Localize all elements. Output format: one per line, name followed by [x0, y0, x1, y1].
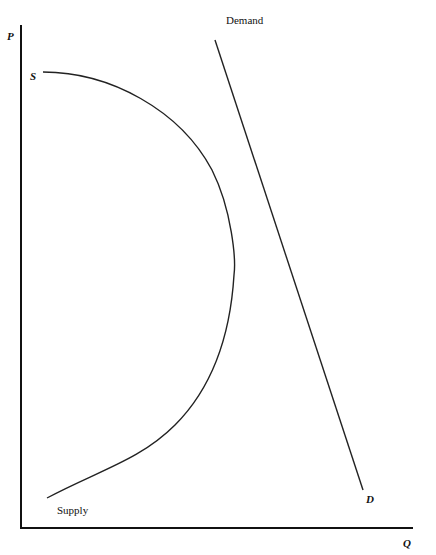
demand-curve: [215, 40, 363, 490]
supply-end-label: Supply: [57, 504, 89, 516]
supply-curve: [43, 72, 234, 498]
quantity-axis-label: Q: [403, 537, 411, 549]
demand-start-label: Demand: [226, 14, 264, 26]
demand-end-label: D: [365, 493, 374, 505]
supply-start-label: S: [30, 70, 36, 82]
supply-demand-diagram: P Q S Supply Demand D: [0, 0, 436, 555]
price-axis-label: P: [7, 30, 14, 42]
